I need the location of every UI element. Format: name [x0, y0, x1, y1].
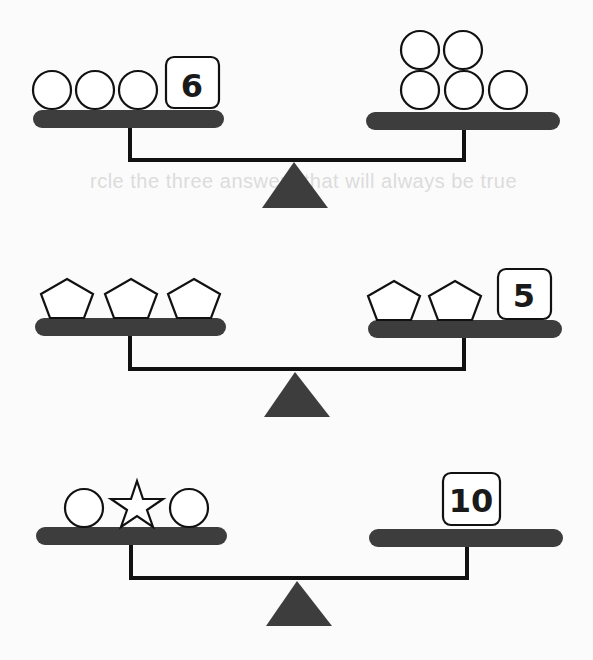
circle-icon	[444, 31, 482, 69]
balance-scales-diagram: 6 5	[0, 0, 593, 660]
circle-icon	[119, 71, 157, 109]
left-pan	[35, 318, 226, 336]
beam	[131, 543, 467, 578]
right-number: 5	[513, 277, 535, 315]
circle-icon	[445, 71, 483, 109]
circle-icon	[76, 71, 114, 109]
left-pan	[36, 527, 227, 545]
balance-2: 5	[35, 269, 562, 417]
balance-3: 10	[36, 473, 563, 626]
fulcrum-triangle	[264, 372, 330, 417]
pentagon-icon	[105, 279, 157, 318]
star-icon	[111, 481, 163, 527]
fulcrum-triangle	[262, 162, 328, 208]
circle-icon	[401, 71, 439, 109]
circle-icon	[489, 71, 527, 109]
left-weights	[65, 481, 208, 527]
beam	[130, 127, 464, 160]
left-pan	[33, 110, 224, 128]
pentagon-icon	[429, 281, 481, 320]
balance-1: 6	[33, 31, 560, 208]
pentagon-icon	[368, 281, 420, 320]
right-pan	[366, 112, 560, 130]
circle-icon	[401, 31, 439, 69]
circle-icon	[170, 489, 208, 527]
left-number: 6	[181, 67, 203, 105]
left-weights	[41, 279, 220, 318]
right-weights	[401, 31, 527, 109]
pentagon-icon	[41, 279, 93, 318]
circle-icon	[33, 71, 71, 109]
fulcrum-triangle	[266, 581, 332, 626]
pentagon-icon	[168, 279, 220, 318]
circle-icon	[65, 489, 103, 527]
right-pan	[369, 529, 563, 547]
right-number: 10	[449, 482, 494, 520]
beam	[130, 333, 464, 369]
right-pan	[368, 320, 562, 338]
